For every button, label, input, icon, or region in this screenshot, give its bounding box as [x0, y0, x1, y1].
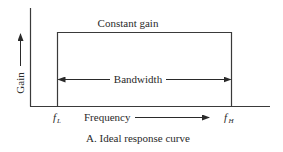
- high-frequency-label: f H: [224, 111, 235, 125]
- svg-text:L: L: [56, 117, 61, 125]
- bandwidth-label: Bandwidth: [114, 73, 163, 85]
- ideal-response-diagram: Constant gain Bandwidth Gain f L Frequen…: [0, 0, 283, 152]
- gain-axis-label: Gain: [14, 72, 26, 94]
- svg-text:H: H: [228, 117, 235, 125]
- frequency-axis-label: Frequency: [84, 111, 131, 123]
- response-curve: [58, 33, 232, 107]
- low-frequency-label: f L: [53, 111, 61, 125]
- figure-caption: A. Ideal response curve: [86, 132, 190, 144]
- constant-gain-label: Constant gain: [98, 17, 159, 29]
